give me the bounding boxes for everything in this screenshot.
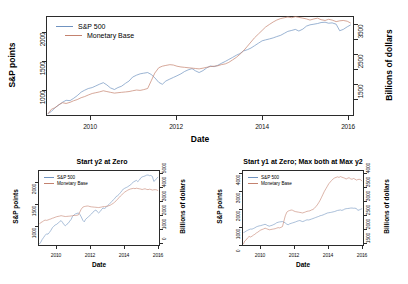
left-xtick-0: 2010 [46, 252, 66, 258]
main-ytick-right-1: 2500 [357, 54, 364, 70]
right-ytick-mark-4 [239, 173, 242, 174]
left-ytick-right-mark-1 [160, 229, 163, 230]
right-ytick-right-mark-2 [364, 215, 367, 216]
right-xtick-0: 2010 [250, 252, 270, 258]
main-legend: S&P 500 Monetary Base [56, 22, 134, 40]
main-xtick-1: 2012 [164, 123, 188, 130]
left-ytick-left-0: 1000 [31, 227, 37, 239]
left-subpanel-title: Start y2 at Zero [22, 158, 182, 165]
main-ytick-right-mark-0 [354, 99, 358, 100]
right-xtick-mark-1 [294, 246, 295, 249]
left-xtick-mark-3 [158, 246, 159, 249]
left-xtick-mark-1 [90, 246, 91, 249]
legend-swatch-monetary-base-right [248, 183, 258, 184]
main-ylabel-right: Billions of dollars [384, 27, 394, 103]
legend-swatch-monetary-base [65, 35, 82, 36]
left-ytick-left-1: 1500 [31, 205, 37, 217]
main-ytick-mark-0 [42, 90, 46, 91]
right-xtick-3: 2016 [352, 252, 372, 258]
right-ytick-right-mark-3 [364, 201, 367, 202]
left-ytick-left-2: 2000 [31, 183, 37, 195]
legend-entry-sp500: S&P 500 [56, 22, 134, 31]
main-ytick-right-0: 1500 [357, 84, 364, 100]
main-ytick-mark-2 [42, 32, 46, 33]
legend-label-monetary-base-left: Monetary Base [57, 181, 88, 186]
main-ytick-left-1: 1500 [39, 62, 46, 76]
right-ytick-left-1: 1000 [235, 228, 241, 240]
left-xlabel: Date [74, 261, 124, 268]
main-ytick-left-2: 2000 [39, 33, 46, 47]
main-xtick-mark-0 [90, 116, 91, 120]
main-ytick-mark-1 [42, 61, 46, 62]
legend-entry-monetary-base: Monetary Base [65, 31, 134, 40]
left-xtick-1: 2012 [80, 252, 100, 258]
right-ytick-left-2: 2000 [235, 210, 241, 222]
right-ytick-left-0: 0 [235, 246, 241, 256]
legend-swatch-sp500-right [248, 177, 258, 178]
figure-canvas: S&P 500 Monetary Base 1000 1500 2000 150… [0, 0, 408, 284]
legend-label-monetary-base-right: Monetary Base [261, 181, 292, 186]
left-subpanel-legend: S&P 500 Monetary Base [44, 174, 88, 186]
monetary-base-line-right [243, 177, 362, 245]
main-ytick-right-2: 3500 [357, 24, 364, 40]
main-xlabel: Date [170, 134, 230, 144]
legend-swatch-monetary-base-left [44, 183, 54, 184]
legend-label-sp500-right: S&P 500 [261, 175, 279, 180]
legend-label-monetary-base: Monetary Base [87, 32, 134, 39]
right-subpanel-legend: S&P 500 Monetary Base [248, 174, 292, 186]
main-ytick-right-mark-4 [354, 54, 358, 55]
main-xtick-3: 2016 [336, 123, 360, 130]
right-ylabel-right: Billions of dollars [383, 177, 390, 237]
main-ytick-right-mark-2 [354, 39, 358, 40]
right-ytick-left-4: 4000 [235, 174, 241, 186]
right-xtick-mark-3 [362, 246, 363, 249]
left-subpanel: Start y2 at Zero S&P 500 Monetary Base 1… [0, 155, 204, 284]
right-xtick-2: 2014 [318, 252, 338, 258]
right-ytick-right-mark-4 [364, 187, 367, 188]
right-xtick-mark-2 [328, 246, 329, 249]
right-ytick-mark-1 [239, 227, 242, 228]
main-xtick-mark-2 [262, 116, 263, 120]
right-xtick-mark-0 [260, 246, 261, 249]
legend-swatch-sp500-left [44, 177, 54, 178]
main-xtick-2: 2014 [250, 123, 274, 130]
left-ylabel-right: Billions of dollars [179, 177, 186, 237]
main-xtick-0: 2010 [78, 123, 102, 130]
right-ytick-mark-0 [239, 245, 242, 246]
left-ytick-mark-0 [35, 226, 38, 227]
left-xtick-3: 2016 [148, 252, 168, 258]
left-ytick-mark-2 [35, 182, 38, 183]
right-ytick-mark-2 [239, 209, 242, 210]
right-subpanel-title: Start y1 at Zero; Max both at Max y2 [218, 158, 388, 165]
main-ytick-right-mark-1 [354, 69, 358, 70]
sp500-line-right [243, 208, 362, 233]
main-ytick-right-mark-5 [354, 84, 358, 85]
monetary-base-line-left [39, 188, 158, 224]
left-xtick-2: 2014 [114, 252, 134, 258]
main-ylabel-left: S&P points [7, 35, 17, 95]
right-xlabel: Date [278, 261, 328, 268]
left-ytick-right-mark-5 [160, 173, 163, 174]
left-ytick-right-mark-4 [160, 187, 163, 188]
legend-swatch-sp500 [56, 26, 73, 27]
right-ylabel-left: S&P points [216, 185, 223, 229]
right-ytick-right-mark-5 [364, 173, 367, 174]
main-ytick-left-0: 1000 [39, 91, 46, 105]
legend-label-sp500: S&P 500 [78, 23, 106, 30]
legend-label-sp500-left: S&P 500 [57, 175, 75, 180]
main-xtick-mark-3 [348, 116, 349, 120]
right-ytick-right-mark-1 [364, 229, 367, 230]
right-ytick-right-mark-0 [364, 243, 367, 244]
left-ytick-right-mark-2 [160, 215, 163, 216]
main-ytick-right-mark-3 [354, 24, 358, 25]
left-xtick-mark-0 [56, 246, 57, 249]
left-ytick-right-mark-0 [160, 243, 163, 244]
right-ytick-left-3: 3000 [235, 192, 241, 204]
left-xtick-mark-2 [124, 246, 125, 249]
right-xtick-1: 2012 [284, 252, 304, 258]
right-ytick-mark-3 [239, 191, 242, 192]
legend-entry-monetary-base-left: Monetary Base [44, 180, 88, 186]
left-ytick-right-mark-3 [160, 201, 163, 202]
main-xtick-mark-1 [176, 116, 177, 120]
main-panel: S&P 500 Monetary Base 1000 1500 2000 150… [0, 0, 408, 152]
